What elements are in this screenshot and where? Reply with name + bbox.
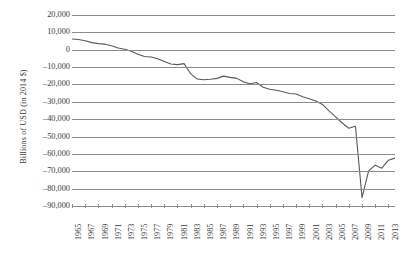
x-tick-mark xyxy=(191,204,192,208)
gridline xyxy=(72,32,395,33)
x-tick-label: 2013 xyxy=(392,224,400,240)
x-tick-mark xyxy=(349,204,350,208)
x-tick-mark xyxy=(177,204,178,208)
x-tick-label: 1967 xyxy=(88,224,96,240)
gridline xyxy=(72,171,395,172)
x-tick-label: 1981 xyxy=(181,224,189,240)
gridline xyxy=(72,50,395,51)
y-tick-label: 0 xyxy=(66,46,70,54)
y-axis-tick-labels: 20,00010,0000–10,000–20,000–30,000–40,00… xyxy=(22,15,70,206)
x-tick-mark xyxy=(125,204,126,208)
gridline xyxy=(72,206,395,207)
x-tick-label: 1989 xyxy=(233,224,241,240)
x-tick-label: 2005 xyxy=(339,224,347,240)
chart-container: Billions of USD (in 2014 $) 20,00010,000… xyxy=(0,0,414,256)
gridline xyxy=(72,84,395,85)
x-tick-label: 2003 xyxy=(326,224,334,240)
gridline xyxy=(72,102,395,103)
x-tick-mark xyxy=(388,204,389,208)
x-tick-label: 2009 xyxy=(365,224,373,240)
x-tick-label: 1993 xyxy=(260,224,268,240)
y-tick-label: 10,000 xyxy=(47,28,70,36)
x-tick-label: 1999 xyxy=(299,224,307,240)
x-tick-label: 1985 xyxy=(207,224,215,240)
x-tick-label: 2001 xyxy=(313,224,321,240)
x-tick-label: 1987 xyxy=(220,224,228,240)
x-tick-label: 1973 xyxy=(128,224,136,240)
x-tick-mark xyxy=(204,204,205,208)
x-tick-mark xyxy=(138,204,139,208)
x-tick-mark xyxy=(283,204,284,208)
gridline xyxy=(72,67,395,68)
x-tick-mark xyxy=(362,204,363,208)
gridline xyxy=(72,137,395,138)
plot-area xyxy=(72,15,395,206)
y-tick-label: –10,000 xyxy=(43,63,70,71)
x-tick-mark xyxy=(270,204,271,208)
y-tick-label: 20,000 xyxy=(47,11,70,19)
x-tick-mark xyxy=(98,204,99,208)
x-tick-mark xyxy=(85,204,86,208)
x-tick-mark xyxy=(375,204,376,208)
x-tick-label: 1997 xyxy=(286,224,294,240)
x-tick-mark xyxy=(257,204,258,208)
x-tick-label: 1991 xyxy=(247,224,255,240)
x-tick-mark xyxy=(151,204,152,208)
x-tick-label: 1975 xyxy=(141,224,149,240)
x-tick-mark xyxy=(309,204,310,208)
y-tick-label: –30,000 xyxy=(43,98,70,106)
y-tick-label: –70,000 xyxy=(43,167,70,175)
x-tick-mark xyxy=(336,204,337,208)
x-tick-label: 1965 xyxy=(75,224,83,240)
gridline xyxy=(72,189,395,190)
gridline xyxy=(72,15,395,16)
x-tick-label: 1983 xyxy=(194,224,202,240)
y-tick-label: –90,000 xyxy=(43,202,70,210)
x-tick-mark xyxy=(296,204,297,208)
y-tick-label: –20,000 xyxy=(43,80,70,88)
x-tick-mark xyxy=(243,204,244,208)
data-series-line xyxy=(72,15,395,206)
x-axis-tick-labels: 1965196719691971197319751977197919811983… xyxy=(72,208,395,256)
x-tick-mark xyxy=(322,204,323,208)
x-tick-label: 1971 xyxy=(115,224,123,240)
x-tick-mark xyxy=(112,204,113,208)
x-tick-mark xyxy=(217,204,218,208)
y-tick-label: –80,000 xyxy=(43,184,70,192)
x-tick-mark xyxy=(230,204,231,208)
x-tick-label: 1977 xyxy=(154,224,162,240)
y-tick-label: –50,000 xyxy=(43,132,70,140)
x-tick-mark xyxy=(72,204,73,208)
x-tick-label: 1995 xyxy=(273,224,281,240)
gridline xyxy=(72,119,395,120)
x-tick-label: 1969 xyxy=(102,224,110,240)
gridline xyxy=(72,154,395,155)
x-tick-label: 2011 xyxy=(378,224,386,240)
y-tick-label: –40,000 xyxy=(43,115,70,123)
x-tick-label: 1979 xyxy=(167,224,175,240)
x-tick-label: 2007 xyxy=(352,224,360,240)
x-tick-mark xyxy=(164,204,165,208)
y-tick-label: –60,000 xyxy=(43,150,70,158)
